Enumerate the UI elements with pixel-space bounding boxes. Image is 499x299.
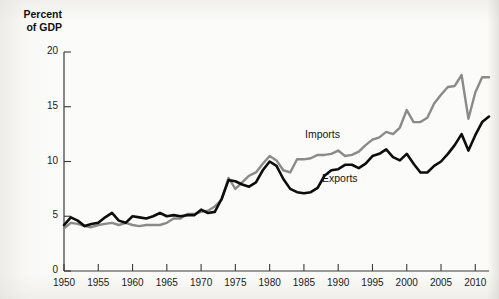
series-label-exports: Exports <box>322 172 358 184</box>
series-line-exports <box>64 117 489 226</box>
series-lines <box>64 75 489 228</box>
line-chart-plot <box>0 0 499 299</box>
y-tick-label: 20 <box>32 45 58 56</box>
y-tick-label: 10 <box>32 155 58 166</box>
series-line-imports <box>64 75 489 228</box>
y-tick-label: 5 <box>32 209 58 220</box>
y-tick-label: 0 <box>32 264 58 275</box>
series-label-imports: Imports <box>305 128 340 140</box>
y-axis-title: Percent of GDP <box>0 8 62 33</box>
x-tick-label: 2010 <box>455 277 495 288</box>
y-tick-label: 15 <box>32 100 58 111</box>
chart-figure: Percent of GDP 05101520 1950195519601965… <box>0 0 499 299</box>
